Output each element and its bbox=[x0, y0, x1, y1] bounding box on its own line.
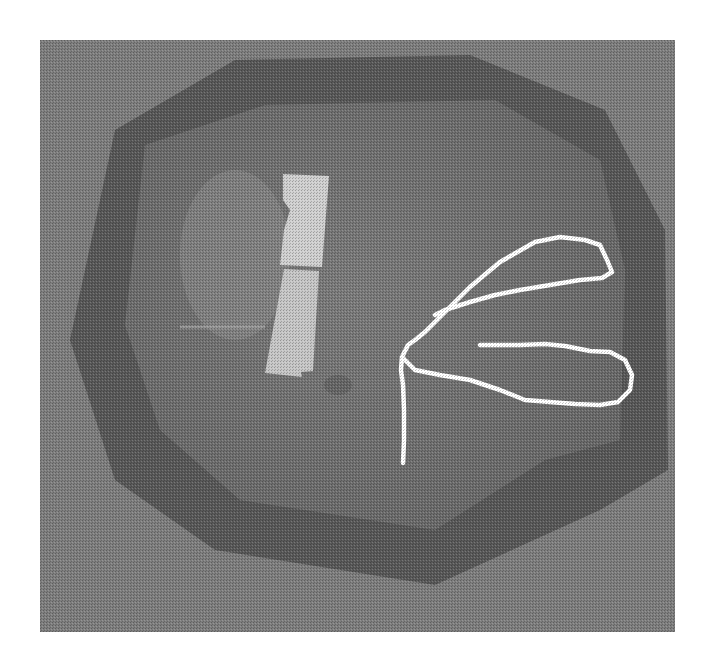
arena-photo bbox=[40, 40, 675, 632]
arena-scene bbox=[40, 40, 675, 632]
halftone-texture bbox=[40, 40, 675, 632]
